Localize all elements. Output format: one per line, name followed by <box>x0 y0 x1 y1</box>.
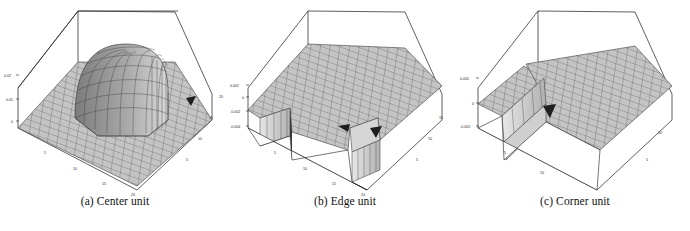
z-axis-ticks-a: 0.02 0.01 0 <box>4 74 19 124</box>
y-tick-label: 5 <box>186 158 188 162</box>
z-tick-label: -0.004 <box>230 125 240 129</box>
y-tick-label: 10 <box>428 137 432 141</box>
dome-surface-a <box>75 44 168 136</box>
panel-caption-c: (c) Corner unit <box>460 195 690 207</box>
y-tick-label: 5 <box>416 158 418 162</box>
y-tick-label: 15 <box>209 116 213 120</box>
panel-edge-unit: 0.002 0 -0.002 -0.004 5 10 15 20 <box>230 0 460 231</box>
z-tick-label: 0.02 <box>4 74 11 78</box>
z-tick-label: 0.002 <box>230 84 239 88</box>
z-tick-label: 0.01 <box>6 98 13 102</box>
z-tick-label: -0.005 <box>460 125 470 129</box>
x-tick-label: 10 <box>303 167 307 171</box>
x-tick-label: 5 <box>274 151 276 155</box>
panel-corner-unit: 0.005 0 -0.005 5 10 5 10 <box>460 0 690 231</box>
panel-caption-b: (b) Edge unit <box>230 195 460 207</box>
surface-svg-a: 0.02 0.01 0 5 10 15 20 5 10 <box>0 0 230 196</box>
x-tick-label: 15 <box>332 182 336 186</box>
y-tick-label: 10 <box>198 137 202 141</box>
z-tick-label: 0 <box>242 96 244 100</box>
x-tick-label: 10 <box>540 171 544 175</box>
surface-svg-b: 0.002 0 -0.002 -0.004 5 10 15 20 <box>230 0 460 196</box>
y-axis-ticks-c: 5 10 <box>646 131 662 162</box>
y-tick-label: 20 <box>219 95 223 99</box>
z-tick-label: 0 <box>472 102 474 106</box>
plot-center-unit: 0.02 0.01 0 5 10 15 20 5 10 <box>0 0 230 196</box>
surface-plot-figure: 0.02 0.01 0 5 10 15 20 5 10 <box>0 0 690 231</box>
x-tick-label: 5 <box>44 151 46 155</box>
plot-edge-unit: 0.002 0 -0.002 -0.004 5 10 15 20 <box>230 0 460 196</box>
surface-svg-c: 0.005 0 -0.005 5 10 5 10 <box>460 0 690 196</box>
x-tick-label: 15 <box>102 182 106 186</box>
y-tick-label: 5 <box>646 158 648 162</box>
z-tick-label: -0.002 <box>230 110 240 114</box>
z-axis-ticks-b: 0.002 0 -0.002 -0.004 <box>230 84 249 129</box>
panel-caption-a: (a) Center unit <box>0 195 230 207</box>
y-tick-label: 10 <box>658 131 662 135</box>
z-axis-ticks-c: 0.005 0 -0.005 <box>460 77 479 129</box>
z-tick-label: 0 <box>11 120 13 124</box>
y-tick-label: 15 <box>439 116 443 120</box>
plot-corner-unit: 0.005 0 -0.005 5 10 5 10 <box>460 0 690 196</box>
x-tick-label: 10 <box>73 167 77 171</box>
z-tick-label: 0.005 <box>460 77 469 81</box>
panel-center-unit: 0.02 0.01 0 5 10 15 20 5 10 <box>0 0 230 231</box>
x-tick-label: 5 <box>504 151 506 155</box>
